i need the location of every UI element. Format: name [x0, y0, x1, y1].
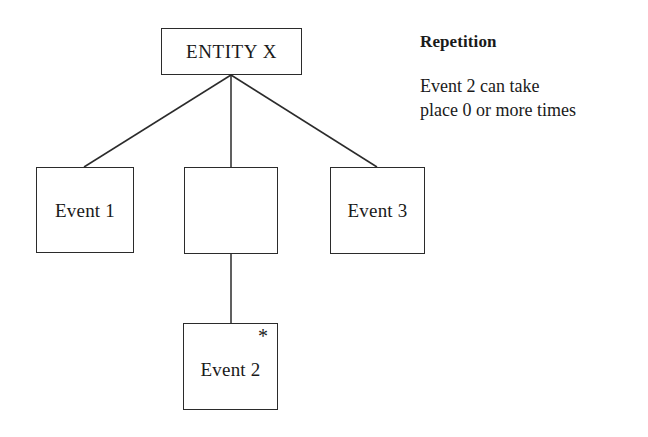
connector-entity-to-event1 — [84, 75, 231, 167]
node-group-empty — [184, 167, 278, 254]
annotation-block: Repetition Event 2 can take place 0 or m… — [420, 33, 635, 122]
annotation-body: Event 2 can take place 0 or more times — [420, 74, 635, 122]
diagram-canvas: ENTITY X Event 1 Event 3 * Event 2 Repet… — [0, 0, 648, 437]
connector-entity-to-event3 — [231, 75, 377, 167]
node-event-2: * Event 2 — [183, 323, 278, 410]
node-event-1-label: Event 1 — [55, 201, 115, 220]
node-event-2-label: Event 2 — [201, 360, 261, 379]
node-event-3: Event 3 — [330, 167, 425, 254]
asterisk-repetition-icon: * — [258, 326, 268, 346]
node-entity-x-label: ENTITY X — [186, 42, 277, 61]
node-entity-x: ENTITY X — [161, 28, 302, 75]
node-event-3-label: Event 3 — [348, 201, 408, 220]
node-event-1: Event 1 — [36, 167, 134, 253]
annotation-title: Repetition — [420, 33, 635, 52]
